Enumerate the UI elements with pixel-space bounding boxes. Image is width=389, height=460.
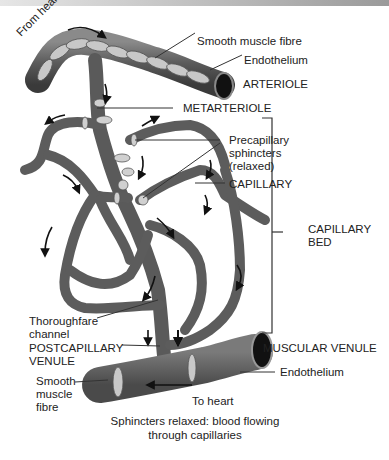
label-thoroughfare-channel: Thoroughfare channel — [29, 315, 98, 341]
label-smooth-muscle-fibre-top: Smooth muscle fibre — [197, 35, 302, 48]
label-capillary: CAPILLARY — [229, 178, 292, 191]
flow-arrow — [140, 156, 143, 176]
label-metarteriole: METARTERIOLE — [183, 102, 271, 115]
label-capillary-bed: CAPILLARY BED — [308, 223, 371, 249]
diagram-caption: Sphincters relaxed: blood flowing throug… — [95, 414, 295, 442]
label-arteriole: ARTERIOLE — [243, 78, 308, 91]
leader-endothelium-top — [210, 55, 242, 70]
arteriole-lumen — [215, 73, 233, 99]
label-endothelium-bottom: Endothelium — [280, 366, 344, 379]
flow-arrow — [142, 118, 156, 126]
flow-arrow — [45, 227, 52, 253]
label-to-heart: To heart — [192, 395, 234, 408]
label-precapillary-sphincters: Precapillary sphincters (relaxed) — [229, 134, 289, 173]
label-endothelium-top: Endothelium — [244, 54, 308, 67]
flow-arrow — [105, 84, 107, 100]
flow-arrow — [205, 195, 207, 211]
label-muscular-venule: MUSCULAR VENULE — [263, 342, 377, 355]
label-postcapillary-venule: POSTCAPILLARY VENULE — [29, 342, 123, 368]
label-smooth-muscle-fibre-bottom: Smooth muscle fibre — [36, 375, 76, 414]
leader-postcapillary — [122, 345, 160, 346]
